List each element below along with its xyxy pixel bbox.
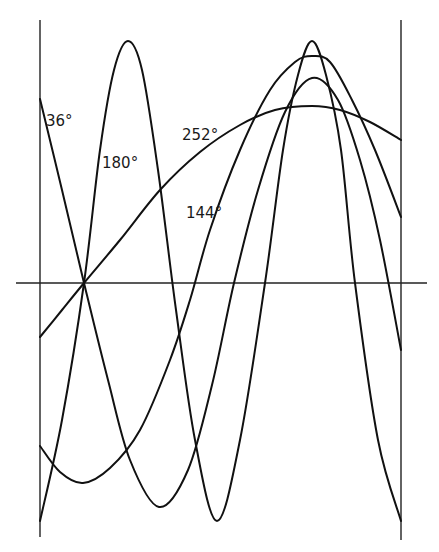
curve-label-144: 144°	[186, 204, 222, 222]
diagram-canvas: 36° 180° 252° 144°	[0, 0, 439, 552]
curve-label-252: 252°	[182, 126, 218, 144]
curve-group	[40, 41, 401, 521]
curve-36-deg	[40, 78, 401, 507]
curve-label-180: 180°	[102, 154, 138, 172]
curve-label-36: 36°	[46, 112, 73, 130]
label-group: 36° 180° 252° 144°	[46, 112, 222, 222]
